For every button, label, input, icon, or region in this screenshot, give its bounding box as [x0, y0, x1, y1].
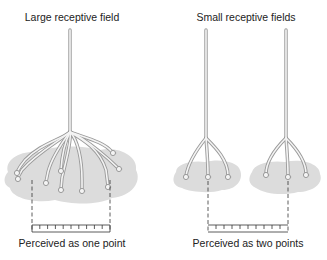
- large-receptive-field-area: [5, 147, 138, 204]
- large-field-caption: Perceived as one point: [19, 237, 126, 249]
- small-nerve-fiber-right: [263, 30, 308, 180]
- small-fields-caption: Perceived as two points: [193, 237, 304, 249]
- receptive-field-diagram: [0, 0, 327, 260]
- small-nerve-fiber-left: [183, 30, 230, 180]
